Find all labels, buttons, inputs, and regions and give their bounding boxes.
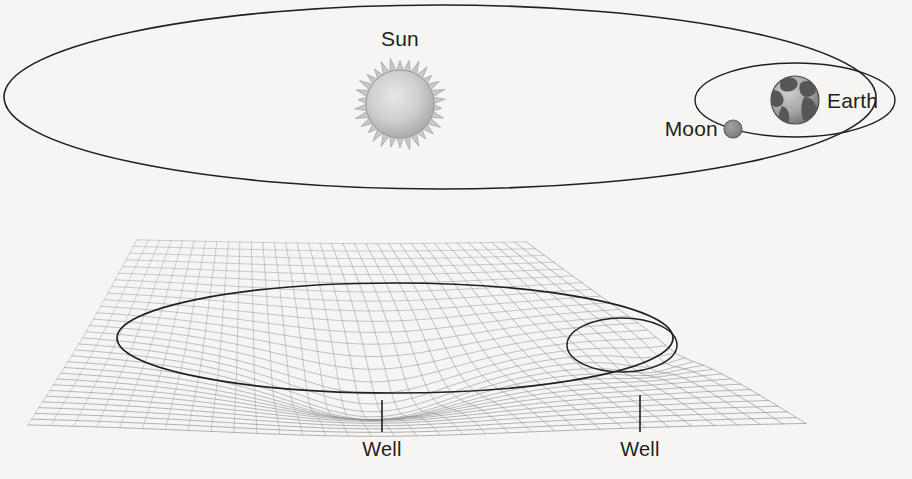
moon-body [724, 120, 742, 138]
well-earth-label: Well [620, 438, 659, 460]
figure-root: Sun Earth Moon Well Well [0, 0, 912, 479]
well-sun-label: Well [362, 438, 401, 460]
sun-label: Sun [381, 27, 419, 50]
gravity-well-diagram: Sun Earth Moon Well Well [0, 0, 912, 479]
earth-label: Earth [827, 89, 878, 112]
moon-label: Moon [665, 117, 718, 140]
